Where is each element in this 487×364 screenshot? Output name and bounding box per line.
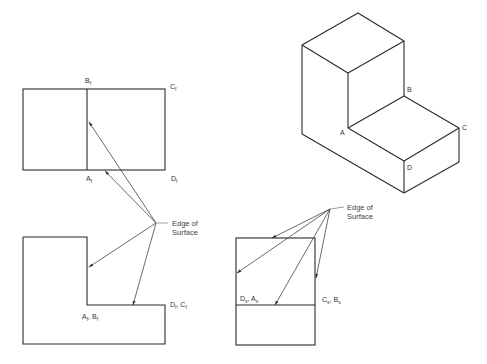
edge-label-tick-right (330, 207, 344, 209)
label-a-iso: A (340, 129, 345, 137)
label-b-iso: B (407, 86, 412, 94)
label-c-iso: C (462, 124, 467, 132)
l-shape-view (23, 237, 165, 344)
edge-leaders-left (89, 122, 156, 305)
label-da-side: Ds, As (240, 295, 258, 303)
label-cb-side: Cs, Bs (322, 296, 341, 304)
edge-of-surface-label-left: Edge of Surface (172, 219, 198, 237)
label-d-iso: D (407, 164, 412, 172)
label-ab-top: Af, Bf (82, 313, 98, 321)
projection-drawing (0, 0, 487, 364)
edge-leaders-right (237, 209, 330, 305)
isometric-view (302, 13, 459, 193)
label-c-front: Cf (170, 83, 176, 91)
label-dc-top: Df, Cf (170, 301, 187, 309)
label-a-front: Af (86, 175, 92, 183)
edge-of-surface-label-right: Edge of Surface (347, 203, 373, 221)
side-view (236, 238, 315, 345)
label-d-front: Df (171, 175, 177, 183)
label-b-front: Bf (85, 77, 91, 85)
